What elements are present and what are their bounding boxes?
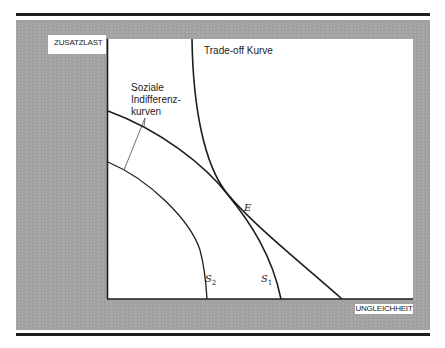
indifference-label-line-3: kurven [131,106,181,118]
s1-label: S1 [261,273,272,287]
indifference-curve-s1 [108,111,281,299]
equilibrium-point-label: E [244,202,251,213]
s1-subscript: 1 [268,279,272,287]
bottom-rule [16,333,430,336]
s2-subscript: 2 [212,279,216,287]
s2-symbol: S [205,273,212,284]
indifference-label-line-2: Indifferenz- [131,94,181,106]
s1-symbol: S [261,273,268,284]
s2-label: S2 [205,273,216,287]
tradeoff-curve-label: Trade-off Kurve [204,45,273,57]
tradeoff-curve [192,39,342,299]
x-axis-label: UNGLEICHHEIT [355,304,413,314]
indifference-curves-label: Soziale Indifferenz- kurven [131,82,181,118]
y-axis-label: ZUSATZLAST [48,35,106,54]
indifference-label-line-1: Soziale [131,82,181,94]
label-pointer [124,118,145,170]
indifference-curve-s2 [108,162,207,299]
